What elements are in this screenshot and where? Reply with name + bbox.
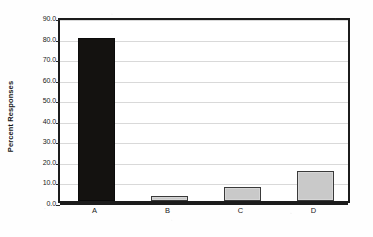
- bar-A: [78, 38, 115, 201]
- x-axis-tick-label: C: [238, 206, 243, 215]
- y-axis-tick-label: 60.0: [22, 76, 56, 83]
- x-axis-tick-labels: ABCD: [58, 206, 350, 222]
- y-axis-tick-label: 20.0: [22, 158, 56, 165]
- x-axis-tick-label: A: [92, 206, 97, 215]
- y-axis-tick-labels: 90.080.070.060.050.040.030.020.010.00.0: [22, 18, 56, 203]
- y-axis-title: Percent Responses: [4, 60, 18, 172]
- x-axis-tick-label: B: [165, 206, 170, 215]
- bar-series: [60, 20, 348, 201]
- y-axis-tick-label: 70.0: [22, 56, 56, 63]
- y-axis-tick-label: 50.0: [22, 97, 56, 104]
- x-axis-tick-label: D: [311, 206, 316, 215]
- axis-baseline: [60, 203, 348, 205]
- bar-B: [151, 196, 188, 201]
- plot-area: [58, 18, 350, 203]
- y-axis-tick-label: 80.0: [22, 35, 56, 42]
- y-axis-tick-label: 90.0: [22, 15, 56, 22]
- y-axis-tick-label: 40.0: [22, 117, 56, 124]
- y-axis-tick-label: 0.0: [22, 200, 56, 207]
- y-axis-tick-label: 30.0: [22, 138, 56, 145]
- plot-inner: [60, 20, 348, 201]
- y-axis-title-text: Percent Responses: [7, 80, 16, 151]
- bar-chart-figure: Percent Responses 90.080.070.060.050.040…: [0, 0, 373, 237]
- y-axis-tick-label: 10.0: [22, 179, 56, 186]
- bar-D: [297, 171, 334, 201]
- bar-C: [224, 187, 261, 201]
